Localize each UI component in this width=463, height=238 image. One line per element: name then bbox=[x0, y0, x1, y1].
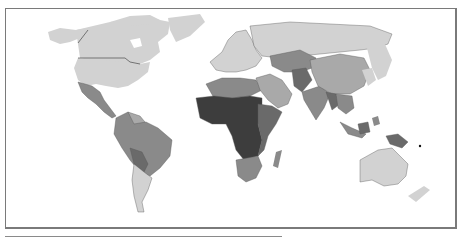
world-choropleth-map bbox=[0, 0, 463, 238]
region-south-america bbox=[114, 112, 172, 212]
region-central-america bbox=[78, 82, 116, 118]
region-southeast-asia bbox=[340, 116, 421, 148]
region-oceania bbox=[360, 148, 430, 202]
region-north-america bbox=[48, 14, 205, 88]
